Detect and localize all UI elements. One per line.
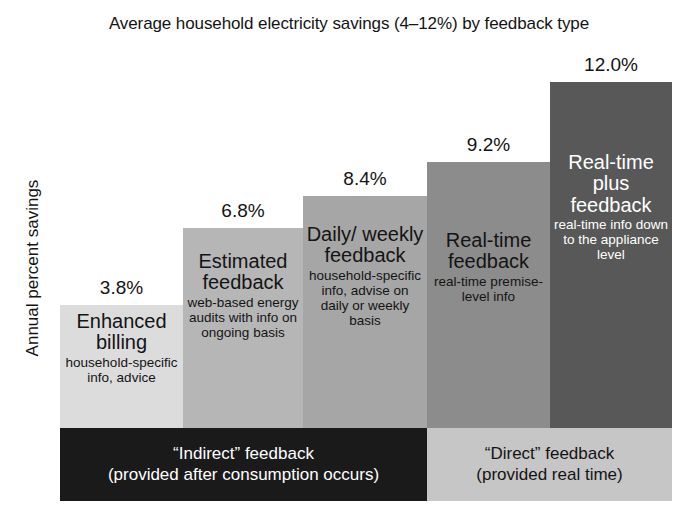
bar-rect[interactable]: Daily/ weekly feedback household-specifi…	[303, 196, 427, 428]
category-band-line1: “Direct” feedback	[485, 444, 614, 463]
category-band-text: “Direct” feedback (provided real time)	[476, 444, 622, 485]
bar-caption: Estimated feedback web-based energy audi…	[183, 251, 303, 340]
bar-column-daily-weekly-feedback: 8.4% Daily/ weekly feedback household-sp…	[303, 55, 427, 428]
bar-description: real-time premise-level info	[430, 274, 547, 304]
category-bands: “Indirect” feedback (provided after cons…	[60, 428, 672, 501]
bar-description: household-specific info, advice	[63, 355, 180, 385]
bar-column-estimated-feedback: 6.8% Estimated feedback web-based energy…	[183, 55, 303, 428]
bar-value-label: 3.8%	[60, 277, 183, 299]
category-band-line1: “Indirect” feedback	[173, 444, 314, 463]
bar-value-label: 6.8%	[183, 200, 303, 222]
bar-column-real-time-plus-feedback: 12.0% Real-time plus feedback real-time …	[550, 55, 672, 428]
bar-heading: Enhanced billing	[63, 311, 180, 354]
bar-caption: Enhanced billing household-specific info…	[60, 311, 183, 385]
bar-rect[interactable]: Estimated feedback web-based energy audi…	[183, 228, 303, 428]
bar-heading: Daily/ weekly feedback	[306, 224, 424, 267]
plot-area: 3.8% Enhanced billing household-specific…	[60, 55, 672, 428]
bar-rect[interactable]: Real-time plus feedback real-time info d…	[550, 82, 672, 428]
bar-value-label: 9.2%	[427, 134, 550, 156]
chart-title: Average household electricity savings (4…	[0, 14, 698, 34]
bar-description: real-time info down to the appliance lev…	[553, 217, 669, 262]
bar-column-real-time-feedback: 9.2% Real-time feedback real-time premis…	[427, 55, 550, 428]
category-band-text: “Indirect” feedback (provided after cons…	[108, 444, 379, 485]
bar-description: household-specific info, advise on daily…	[306, 268, 424, 328]
bar-heading: Real-time feedback	[430, 230, 547, 273]
bar-column-enhanced-billing: 3.8% Enhanced billing household-specific…	[60, 55, 183, 428]
bar-description: web-based energy audits with info on ong…	[186, 295, 300, 340]
bar-heading: Real-time plus feedback	[553, 152, 669, 216]
bar-value-label: 8.4%	[303, 168, 427, 190]
bar-caption: Real-time plus feedback real-time info d…	[550, 152, 672, 263]
category-band-line2: (provided after consumption occurs)	[108, 465, 379, 484]
bar-rect[interactable]: Enhanced billing household-specific info…	[60, 305, 183, 428]
bar-rect[interactable]: Real-time feedback real-time premise-lev…	[427, 162, 550, 428]
bar-caption: Daily/ weekly feedback household-specifi…	[303, 224, 427, 328]
category-band-line2: (provided real time)	[476, 465, 622, 484]
category-band-direct[interactable]: “Direct” feedback (provided real time)	[427, 428, 672, 501]
y-axis-label: Annual percent savings	[23, 143, 43, 393]
category-band-indirect[interactable]: “Indirect” feedback (provided after cons…	[60, 428, 427, 501]
chart-figure: Average household electricity savings (4…	[0, 0, 698, 519]
bar-caption: Real-time feedback real-time premise-lev…	[427, 230, 550, 304]
bar-value-label: 12.0%	[550, 54, 672, 76]
bar-heading: Estimated feedback	[186, 251, 300, 294]
